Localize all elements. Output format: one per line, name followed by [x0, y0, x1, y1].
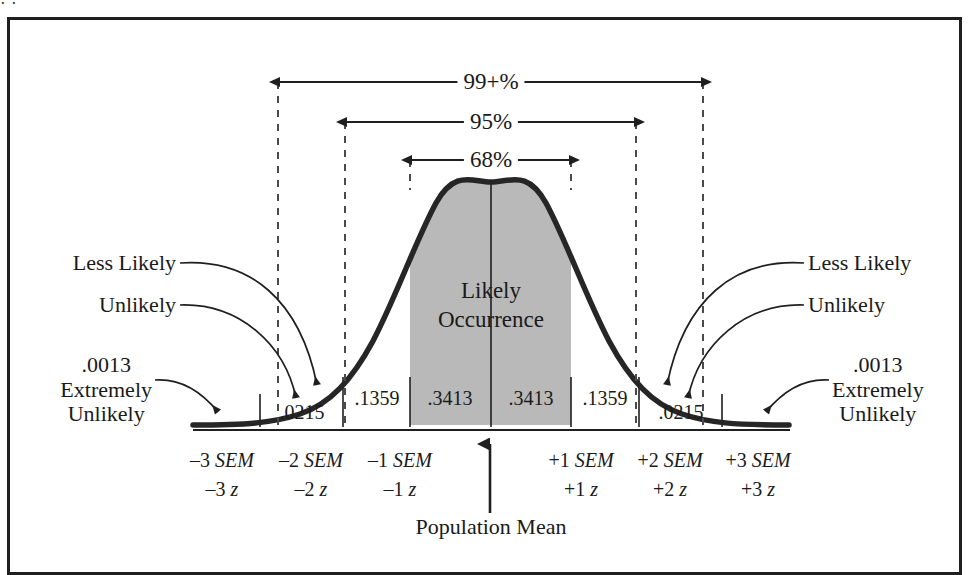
- annotation-left-extreme-line1: Extremely: [60, 378, 152, 403]
- axis-tick-pos3-sem: +3 SEM: [725, 446, 790, 475]
- annotation-right-extreme-value: .0013: [832, 353, 924, 378]
- annotation-right-extreme-line1: Extremely: [832, 378, 924, 403]
- annotation-right-unlikely: Unlikely: [808, 293, 885, 318]
- annotation-likely-line2: Occurrence: [438, 305, 544, 334]
- axis-tick-pos1-sem: +1 SEM: [548, 446, 613, 475]
- annotation-likely-line1: Likely: [438, 276, 544, 305]
- area-label-pos2-pos3: .0215: [659, 401, 704, 423]
- leader-lines-left: [155, 263, 317, 412]
- axis-tick-pos3-z: +3 z: [725, 475, 790, 504]
- population-mean-label: Population Mean: [416, 515, 567, 540]
- bracket-label-99: 99+%: [457, 69, 524, 95]
- annotation-right-less-likely: Less Likely: [808, 251, 911, 276]
- axis-tick-neg2-sem: –2 SEM: [279, 446, 343, 475]
- annotation-right-extremely-unlikely: .0013 Extremely Unlikely: [832, 353, 924, 427]
- annotation-left-extreme-line2: Unlikely: [60, 402, 152, 427]
- annotation-right-extreme-line2: Unlikely: [832, 402, 924, 427]
- annotation-likely-occurrence: Likely Occurrence: [438, 276, 544, 335]
- axis-tick-neg1-z: –1 z: [368, 475, 432, 504]
- annotation-left-extreme-value: .0013: [60, 353, 152, 378]
- axis-tick-neg3-sem: –3 SEM: [190, 446, 254, 475]
- axis-tick-pos1: +1 SEM +1 z: [548, 446, 613, 504]
- leader-lines-right: [667, 263, 829, 412]
- axis-tick-neg3: –3 SEM –3 z: [190, 446, 254, 504]
- area-label-neg3-neg2: .0215: [280, 401, 325, 423]
- area-label-neg1-mean: .3413: [428, 387, 473, 409]
- axis-tick-neg2-z: –2 z: [279, 475, 343, 504]
- area-label-pos1-pos2: .1359: [583, 387, 628, 409]
- area-label-neg2-neg1: .1359: [355, 387, 400, 409]
- annotation-left-less-likely: Less Likely: [73, 251, 176, 276]
- axis-tick-pos1-z: +1 z: [548, 475, 613, 504]
- axis-tick-neg1-sem: –1 SEM: [368, 446, 432, 475]
- bracket-label-95: 95%: [464, 109, 518, 135]
- bracket-label-68: 68%: [464, 147, 518, 173]
- axis-tick-pos2-sem: +2 SEM: [637, 446, 702, 475]
- axis-tick-neg3-z: –3 z: [190, 475, 254, 504]
- area-label-mean-pos1: .3413: [509, 387, 554, 409]
- axis-tick-pos3: +3 SEM +3 z: [725, 446, 790, 504]
- axis-tick-neg1: –1 SEM –1 z: [368, 446, 432, 504]
- axis-tick-pos2-z: +2 z: [637, 475, 702, 504]
- axis-tick-neg2: –2 SEM –2 z: [279, 446, 343, 504]
- axis-tick-pos2: +2 SEM +2 z: [637, 446, 702, 504]
- annotation-left-extremely-unlikely: .0013 Extremely Unlikely: [60, 353, 152, 427]
- annotation-left-unlikely: Unlikely: [99, 293, 176, 318]
